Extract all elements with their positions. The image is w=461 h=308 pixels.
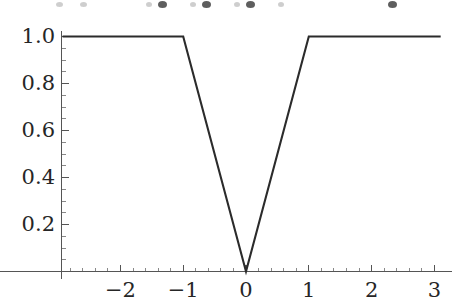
y-tick-label: 0.4 bbox=[0, 167, 55, 188]
y-tick-label: 0.8 bbox=[0, 73, 55, 94]
y-tick-label: 0.2 bbox=[0, 214, 55, 235]
x-tick-label: 0 bbox=[226, 280, 266, 301]
x-axis-major-ticks bbox=[120, 265, 434, 272]
figure-canvas: 1.00.80.60.40.2 −2−10123 bbox=[0, 0, 461, 308]
plot-area bbox=[0, 0, 461, 308]
x-tick-label: 2 bbox=[352, 280, 392, 301]
y-axis-major-ticks bbox=[62, 37, 69, 225]
x-tick-label: 3 bbox=[414, 280, 454, 301]
x-tick-label: −2 bbox=[100, 280, 140, 301]
y-tick-label: 1.0 bbox=[0, 26, 55, 47]
x-tick-label: −1 bbox=[163, 280, 203, 301]
x-tick-label: 1 bbox=[289, 280, 329, 301]
data-series-line bbox=[63, 37, 441, 272]
y-tick-label: 0.6 bbox=[0, 120, 55, 141]
y-axis-minor-ticks bbox=[62, 48, 66, 271]
